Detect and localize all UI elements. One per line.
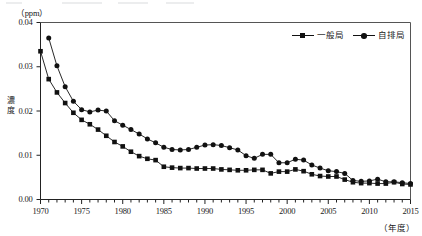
- x-tick-label: 1995: [229, 206, 263, 216]
- chart-figure: （ppm） 濃度 （年度） 0.000.010.020.030.04197019…: [0, 0, 422, 236]
- x-tick-label: 1985: [147, 206, 181, 216]
- legend-label-1: 自排局: [378, 31, 405, 40]
- x-tick-label: 2010: [352, 206, 386, 216]
- y-tick-label: 0.03: [3, 61, 33, 71]
- x-tick-label: 1990: [188, 206, 222, 216]
- legend-marker-square-icon: [292, 31, 314, 40]
- y-tick-label: 0.04: [3, 17, 33, 27]
- x-tick-label: 2000: [270, 206, 304, 216]
- x-tick-label: 1970: [24, 206, 58, 216]
- legend-label-0: 一般局: [317, 31, 344, 40]
- legend-marker-circle-icon: [353, 31, 375, 40]
- x-tick-label: 1975: [65, 206, 99, 216]
- y-tick-label: 0.00: [3, 194, 33, 204]
- x-tick-label: 2005: [311, 206, 345, 216]
- legend-item-1: 自排局: [353, 31, 405, 40]
- x-tick-label: 1980: [106, 206, 140, 216]
- x-tick-label: 2015: [394, 206, 422, 216]
- legend-item-0: 一般局: [292, 31, 344, 40]
- y-tick-label: 0.01: [3, 150, 33, 160]
- y-tick-label: 0.02: [3, 106, 33, 116]
- chart-legend: 一般局 自排局: [292, 31, 405, 40]
